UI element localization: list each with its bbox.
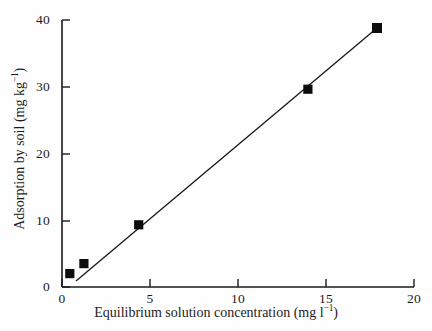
data-point [134, 220, 143, 229]
axis-lines [62, 20, 414, 287]
y-axis-title-text: Adsorption by soil (mg kg [12, 82, 27, 230]
plot-canvas [0, 0, 432, 331]
y-tick-label-0: 0 [14, 280, 50, 294]
adsorption-isotherm-figure: 40 30 20 10 0 0 5 10 15 20 Equilibrium s… [0, 0, 432, 331]
data-point [303, 85, 312, 94]
data-point [79, 259, 88, 268]
x-axis-title: Equilibrium solution concentration (mg l… [0, 303, 432, 321]
data-point [65, 269, 74, 278]
x-axis-title-superscript: −1 [324, 303, 334, 313]
y-axis-ticks [62, 20, 70, 287]
data-series-markers [65, 23, 382, 278]
y-axis-title-tail: ) [12, 68, 27, 73]
x-axis-title-tail: ) [333, 305, 338, 320]
regression-line [76, 28, 377, 281]
y-axis-title: Adsorption by soil (mg kg−1) [10, 24, 28, 274]
x-axis-title-text: Equilibrium solution concentration (mg l [94, 305, 323, 320]
x-axis-ticks [62, 279, 414, 287]
data-point [372, 23, 382, 33]
y-axis-title-superscript: −1 [10, 73, 20, 83]
